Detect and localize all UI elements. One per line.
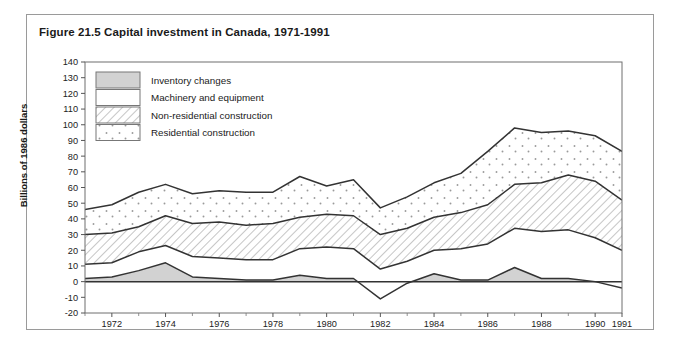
capital-investment-stacked-area-chart: 1401301201101009080706050403020100-10-20… xyxy=(0,0,682,348)
legend-swatch-machinery-and-equipment xyxy=(96,90,140,106)
chart-series-bands xyxy=(85,128,622,299)
legend-swatch-inventory-changes xyxy=(96,72,140,88)
x-tick-label: 1991 xyxy=(612,319,632,329)
y-tick-label: -20 xyxy=(65,308,78,318)
y-tick-label: 40 xyxy=(68,214,78,224)
x-tick-label: 1972 xyxy=(102,319,122,329)
legend-label: Inventory changes xyxy=(151,75,231,86)
x-tick-label: 1980 xyxy=(316,319,336,329)
y-tick-label: -10 xyxy=(65,293,78,303)
y-tick-label: 140 xyxy=(63,57,78,67)
x-tick-label: 1984 xyxy=(424,319,444,329)
y-tick-label: 90 xyxy=(68,136,78,146)
chart-plot-area: Billions of 1986 dollars 140130120110100… xyxy=(0,0,682,348)
y-tick-label: 70 xyxy=(68,167,78,177)
y-tick-label: 10 xyxy=(68,261,78,271)
x-tick-label: 1988 xyxy=(531,319,551,329)
x-tick-label: 1990 xyxy=(585,319,605,329)
legend-swatch-residential-construction xyxy=(96,125,140,141)
x-tick-label: 1982 xyxy=(370,319,390,329)
y-tick-label: 60 xyxy=(68,183,78,193)
y-tick-label: 110 xyxy=(63,104,78,114)
legend-label: Non-residential construction xyxy=(151,110,272,121)
y-tick-label: 130 xyxy=(63,73,78,83)
x-tick-label: 1974 xyxy=(155,319,175,329)
y-tick-label: 50 xyxy=(68,199,78,209)
legend-swatch-non-residential-construction xyxy=(96,107,140,123)
y-tick-label: 20 xyxy=(68,246,78,256)
x-tick-label: 1976 xyxy=(209,319,229,329)
y-tick-label: 30 xyxy=(68,230,78,240)
y-tick-label: 120 xyxy=(63,89,78,99)
legend-label: Residential construction xyxy=(151,127,255,138)
chart-legend: Inventory changesMachinery and equipment… xyxy=(96,72,272,141)
x-tick-label: 1986 xyxy=(478,319,498,329)
y-tick-label: 100 xyxy=(63,120,78,130)
legend-label: Machinery and equipment xyxy=(151,92,264,103)
x-tick-label: 1978 xyxy=(263,319,283,329)
y-tick-label: 0 xyxy=(73,277,78,287)
y-tick-label: 80 xyxy=(68,152,78,162)
